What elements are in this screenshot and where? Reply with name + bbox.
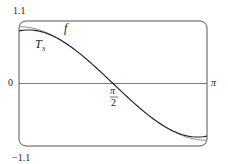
y-tick-bottom: −1.1 <box>12 153 30 163</box>
t3-main: T <box>35 37 42 51</box>
plot-area <box>0 0 228 164</box>
legend-label-t3: T3 <box>35 38 45 53</box>
y-tick-top: 1.1 <box>13 6 26 16</box>
x-tick-pi: π <box>211 78 216 88</box>
y-tick-zero: 0 <box>8 78 13 88</box>
x-tick-pi-half-denominator: 2 <box>111 98 116 108</box>
t3-subscript: 3 <box>42 45 46 53</box>
x-tick-pi-half-numerator: π <box>110 86 115 96</box>
legend-label-f: f <box>64 22 67 34</box>
